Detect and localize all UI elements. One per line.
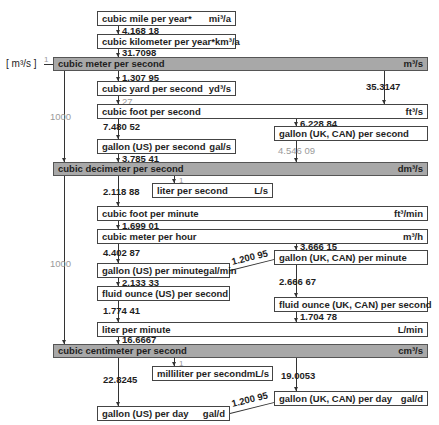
- unit-box-m3h: cubic meter per hour m³/h: [97, 229, 428, 244]
- unit-box-km3a: cubic kilometer per year* km³/a: [97, 34, 236, 49]
- unit-label: gallon (US) per minute: [102, 264, 203, 277]
- base-unit-bracket: [ m³/s ]: [6, 57, 37, 71]
- unit-box-galusd: gallon (US) per day gal/d: [97, 406, 230, 421]
- base-bar-dm3s: cubic decimeter per second dm³/s: [53, 162, 428, 176]
- factor-label: 1000: [50, 111, 71, 122]
- connector: [44, 64, 53, 65]
- factor-label: 19.0053: [281, 370, 315, 381]
- factor-label: 4.402 87: [103, 247, 140, 258]
- unit-box-galusmin: gallon (US) per minute gal/min: [97, 263, 230, 278]
- factor-label: 35.3147: [366, 81, 400, 92]
- unit-box-yd3s: cubic yard per second yd³/s: [97, 81, 236, 96]
- unit-box-flozuks: fluid ounce (UK, CAN) per second: [274, 297, 428, 312]
- unit-symbol: ft³/s: [406, 105, 423, 118]
- unit-label: cubic mile per year*: [102, 12, 192, 25]
- unit-box-ft3s: cubic foot per second ft³/s: [97, 104, 428, 119]
- base-unit-symbol: m³/s: [12, 58, 31, 69]
- unit-box-ls: liter per second L/s: [152, 183, 273, 198]
- unit-box-galukmin: gallon (UK, CAN) per minute: [274, 250, 428, 265]
- unit-label: cubic foot per second: [102, 105, 201, 118]
- unit-label: cubic meter per hour: [102, 230, 197, 243]
- factor-label: 1.200 95: [230, 389, 269, 409]
- factor-label: 1.774 41: [103, 305, 140, 316]
- unit-label: gallon (UK, CAN) per day: [279, 392, 392, 405]
- unit-label: cubic meter per second: [58, 58, 165, 70]
- unit-box-galuss: gallon (US) per second gal/s: [97, 139, 236, 154]
- factor-label: 1.704 78: [300, 311, 337, 322]
- unit-label: cubic centimeter per second: [58, 345, 187, 357]
- unit-label: cubic kilometer per year*: [102, 35, 215, 48]
- unit-label: fluid ounce (US) per second: [102, 287, 228, 300]
- unit-symbol: L/min: [398, 323, 423, 336]
- unit-box-galukd: gallon (UK, CAN) per day gal/d: [274, 391, 428, 406]
- unit-label: milliliter per second: [157, 367, 247, 380]
- unit-label: fluid ounce (UK, CAN) per second: [279, 298, 432, 311]
- unit-label: gallon (UK, CAN) per second: [279, 127, 409, 140]
- base-bar-m3s: cubic meter per second m³/s: [53, 57, 428, 71]
- factor-label: 22.8245: [103, 374, 137, 385]
- factor-label: 1000: [50, 258, 71, 269]
- unit-symbol: yd³/s: [209, 82, 231, 95]
- unit-label: liter per second: [157, 184, 228, 197]
- unit-box-galuks: gallon (UK, CAN) per second: [274, 126, 428, 141]
- unit-box-mi3a: cubic mile per year* mi³/a: [97, 11, 236, 26]
- unit-label: cubic decimeter per second: [58, 163, 184, 175]
- unit-symbol: mL/s: [247, 367, 269, 380]
- unit-symbol: gal/s: [209, 140, 231, 153]
- unit-symbol: m³/s: [403, 58, 423, 70]
- unit-symbol: gal/d: [203, 407, 225, 420]
- unit-symbol: ft³/min: [394, 207, 423, 220]
- unit-box-mls: milliliter per second mL/s: [152, 366, 273, 381]
- unit-symbol: m³/h: [403, 230, 423, 243]
- unit-symbol: km³/a: [215, 35, 240, 48]
- unit-symbol: dm³/s: [398, 163, 423, 175]
- unit-symbol: gal/d: [401, 392, 423, 405]
- unit-symbol: mi³/a: [209, 12, 231, 25]
- factor-label: 2.666 67: [279, 276, 316, 287]
- unit-label: gallon (US) per day: [102, 407, 189, 420]
- unit-box-ft3min: cubic foot per minute ft³/min: [97, 206, 428, 221]
- unit-symbol: gal/min: [203, 264, 236, 277]
- factor-label: 7.480 52: [103, 121, 140, 132]
- base-bar-cm3s: cubic centimeter per second cm³/s: [53, 344, 428, 358]
- unit-symbol: L/s: [254, 184, 268, 197]
- unit-box-flozuss: fluid ounce (US) per second: [97, 286, 230, 301]
- factor-label: 2.118 88: [103, 186, 139, 197]
- unit-label: gallon (US) per second: [102, 140, 205, 153]
- unit-label: cubic foot per minute: [102, 207, 199, 220]
- factor-label: 4.546 09: [278, 145, 315, 156]
- unit-symbol: cm³/s: [398, 345, 423, 357]
- unit-label: cubic yard per second: [102, 82, 203, 95]
- unit-label: gallon (UK, CAN) per minute: [279, 251, 407, 264]
